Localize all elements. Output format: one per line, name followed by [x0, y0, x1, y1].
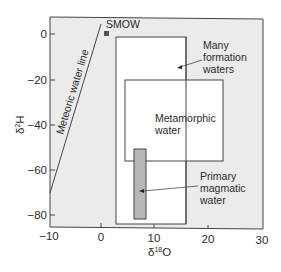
magmatic-label-3: water: [199, 194, 226, 206]
magmatic-label-2: magmatic: [200, 182, 246, 194]
x-tick-label: 20: [202, 233, 215, 245]
magmatic-label-1: Primary: [200, 170, 237, 182]
metamorphic-label-2: water: [154, 124, 181, 136]
y-tick-label: −60: [27, 164, 47, 176]
y-axis-title: δ2H: [14, 115, 26, 134]
x-tick-label: 30: [256, 234, 269, 246]
y-tick-label: 0: [41, 28, 47, 40]
formation-label-2: formation: [203, 51, 247, 63]
y-tick-label: −80: [27, 209, 47, 221]
magmatic-water-region: [134, 149, 146, 219]
x-tick-label: 0: [98, 231, 104, 243]
y-tick-label: −40: [27, 119, 47, 131]
metamorphic-label-1: Metamorphic: [155, 112, 216, 124]
y-tick-label: −20: [27, 74, 47, 86]
smow-marker: [104, 31, 109, 36]
isotope-diagram: Meteoric water line SMOW Many formation …: [0, 0, 281, 272]
x-tick-label: −10: [39, 230, 59, 242]
smow-label: SMOW: [106, 18, 140, 30]
x-axis-title: δ18O: [148, 246, 171, 258]
formation-label-3: waters: [202, 63, 234, 75]
formation-label-1: Many: [203, 39, 229, 51]
x-tick-label: 10: [148, 232, 161, 244]
